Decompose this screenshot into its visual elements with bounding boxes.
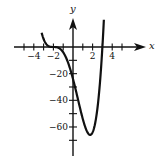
x-tick-label: 4 [109,51,115,61]
x-axis-label: x [149,40,155,51]
y-tick-label: −40 [49,95,68,105]
function-graph: −4−224−20−40−60 x y [0,0,163,167]
y-tick-label: −20 [49,69,68,79]
axes [14,18,146,156]
y-axis-label: y [69,3,76,14]
y-tick-label: −60 [49,122,68,132]
x-tick-label: 2 [90,51,96,61]
x-tick-label: −2 [47,51,60,61]
x-tick-label: −4 [27,51,41,61]
